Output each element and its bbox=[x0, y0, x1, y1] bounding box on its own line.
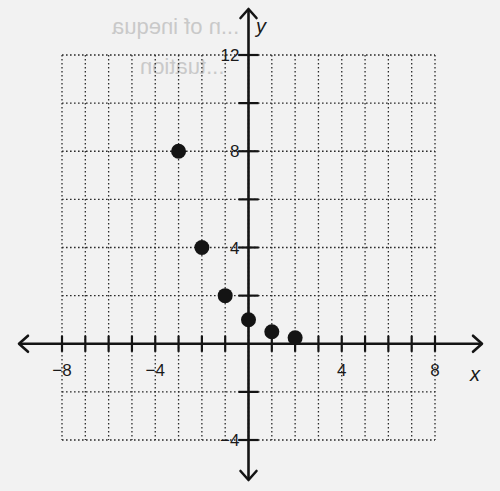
x-tick-label: 4 bbox=[337, 361, 346, 380]
y-tick-label: −4 bbox=[220, 431, 239, 450]
data-point bbox=[218, 288, 233, 303]
y-axis-label: y bbox=[254, 15, 267, 37]
x-tick-label: 8 bbox=[430, 361, 439, 380]
y-tick-label: 4 bbox=[230, 239, 239, 258]
y-tick-label: 8 bbox=[230, 142, 239, 161]
scatter-plot: −8−4481284−4 x y bbox=[0, 0, 500, 491]
coordinate-plane-figure: ...n of inequa ...tuation −8−4481284−4 x… bbox=[0, 0, 500, 491]
x-axis-label: x bbox=[469, 363, 481, 385]
y-tick-label: 12 bbox=[221, 46, 240, 65]
x-tick-label: −8 bbox=[52, 361, 71, 380]
data-point bbox=[194, 240, 209, 255]
axes bbox=[19, 9, 482, 480]
data-point bbox=[288, 330, 303, 345]
x-tick-label: −4 bbox=[146, 361, 165, 380]
data-point bbox=[241, 312, 256, 327]
data-point bbox=[171, 144, 186, 159]
data-point bbox=[264, 324, 279, 339]
